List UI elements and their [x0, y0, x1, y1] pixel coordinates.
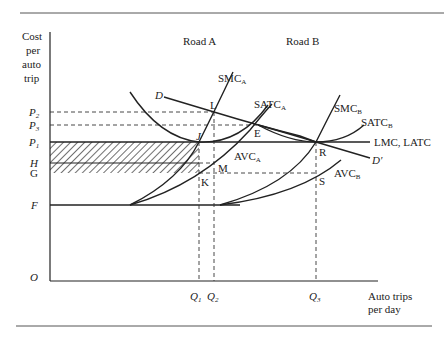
point-m: M — [218, 162, 228, 174]
hatched-area — [50, 142, 199, 173]
label-demand: D — [154, 89, 163, 101]
label-smc-b: SMCB — [334, 102, 362, 116]
tick-g: G — [30, 167, 38, 179]
y-axis-label-line2: per — [26, 44, 40, 56]
point-l: L — [210, 99, 217, 111]
origin-label: O — [30, 271, 38, 283]
label-smc-a: SMCA — [218, 72, 246, 86]
tick-q1: Q1 — [190, 290, 201, 304]
tick-p3: P3 — [28, 119, 40, 133]
label-avc-b: AVCB — [334, 167, 361, 181]
y-axis-label-line1: Cost — [22, 30, 42, 42]
tick-f: F — [30, 199, 38, 211]
road-a-label: Road A — [183, 35, 216, 47]
x-axis-label-line1: Auto trips — [368, 290, 412, 302]
point-s: S — [319, 175, 325, 187]
tick-q2: Q2 — [207, 290, 219, 304]
road-b-label: Road B — [286, 35, 319, 47]
point-e: E — [254, 127, 261, 139]
demand-curve-b — [258, 125, 316, 142]
label-lmc-latc: LMC, LATC — [374, 136, 431, 148]
road-cost-diagram: Cost per auto trip P2 P3 P1 H G F O Q1 Q… — [0, 0, 444, 344]
y-axis-label-line3: auto — [22, 58, 41, 70]
tick-p2: P2 — [28, 106, 40, 120]
tick-q3: Q3 — [309, 290, 321, 304]
label-satc-a: SATCA — [254, 98, 286, 112]
point-j: J — [196, 130, 202, 142]
tick-p1: P1 — [28, 136, 39, 150]
x-axis-label-line2: per day — [368, 303, 401, 315]
point-k: K — [201, 176, 209, 188]
y-axis-label-line4: trip — [24, 72, 40, 84]
label-demand-prime: D′ — [371, 154, 383, 166]
point-r: R — [319, 146, 327, 158]
label-avc-a: AVCA — [234, 150, 261, 164]
label-satc-b: SATCB — [361, 116, 393, 130]
